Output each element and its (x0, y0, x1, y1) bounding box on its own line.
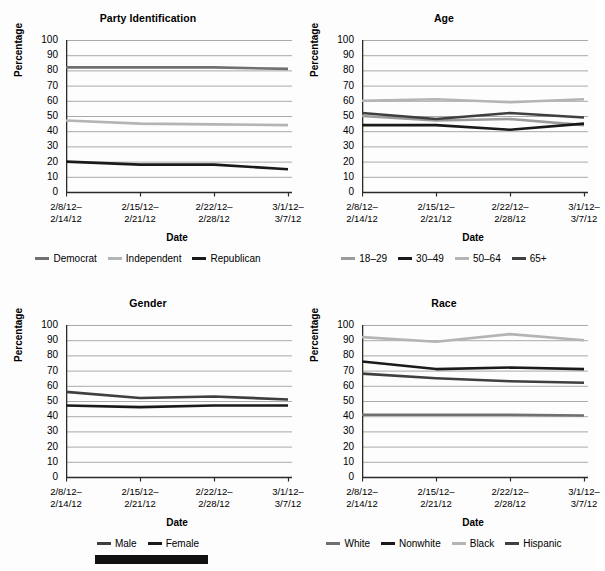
y-axis-tick-label: 100 (326, 35, 354, 45)
y-axis-tick-label: 100 (30, 320, 58, 330)
legend-label: 18–29 (359, 253, 387, 264)
y-axis-tick-label: 90 (30, 50, 58, 60)
x-tick-line1: 2/8/12– (346, 486, 378, 497)
legend-item[interactable]: Hispanic (505, 538, 561, 549)
legend-label: Democrat (53, 253, 96, 264)
data-series-line (66, 121, 288, 126)
x-axis-tick-label: 2/15/12–2/21/12 (399, 486, 473, 509)
x-axis-tick-label: 2/22/12–2/28/12 (473, 201, 547, 224)
x-tick-line1: 2/15/12– (122, 486, 159, 497)
chart-panel-gender: Gender Percentage 1009080706050403020100… (0, 285, 296, 570)
x-axis-label: Date (66, 517, 288, 528)
x-axis-tick-label: 2/22/12–2/28/12 (473, 486, 547, 509)
y-axis-tick-label: 70 (30, 366, 58, 376)
x-axis-tick-label: 3/1/12–3/7/12 (547, 201, 605, 224)
data-series-line (362, 374, 584, 383)
data-series-line (362, 99, 584, 102)
x-tick-line2: 3/7/12 (547, 498, 605, 510)
y-axis-tick-label: 80 (326, 65, 354, 75)
x-axis-tick-label: 2/15/12–2/21/12 (103, 201, 177, 224)
x-tick-line1: 2/22/12– (492, 486, 529, 497)
y-axis-tick-label: 30 (30, 141, 58, 151)
y-axis-tick-label: 0 (326, 187, 354, 197)
legend-swatch-icon (512, 257, 526, 260)
y-axis-label: Percentage (309, 76, 320, 90)
legend-label: Black (470, 538, 494, 549)
legend-label: 50–64 (473, 253, 501, 264)
redaction-bar (95, 555, 208, 564)
y-axis-tick-label: 100 (30, 35, 58, 45)
legend-item[interactable]: 65+ (512, 253, 547, 264)
y-axis-tick-label: 50 (30, 396, 58, 406)
x-tick-line1: 2/22/12– (492, 201, 529, 212)
legend-item[interactable]: Male (97, 538, 137, 549)
legend-swatch-icon (455, 257, 469, 260)
y-axis-tick-label: 70 (326, 81, 354, 91)
legend-item[interactable]: 30–49 (398, 253, 444, 264)
y-axis-tick-label: 80 (30, 65, 58, 75)
legend-swatch-icon (35, 257, 49, 260)
data-series-line (362, 361, 584, 369)
y-axis-label: Percentage (309, 361, 320, 375)
x-tick-line2: 2/21/12 (399, 498, 473, 510)
y-axis-tick-label: 10 (30, 457, 58, 467)
y-axis-tick-label: 90 (326, 50, 354, 60)
y-axis-tick-label: 20 (326, 157, 354, 167)
legend-swatch-icon (398, 257, 412, 260)
x-tick-line1: 2/15/12– (418, 486, 455, 497)
y-axis-tick-label: 60 (326, 381, 354, 391)
legend-label: Female (166, 538, 199, 549)
y-axis-tick-label: 20 (326, 442, 354, 452)
x-axis-tick-label: 2/8/12–2/14/12 (325, 486, 399, 509)
x-axis-tick-label: 2/15/12–2/21/12 (103, 486, 177, 509)
x-tick-line2: 2/28/12 (177, 213, 251, 225)
y-axis-label: Percentage (13, 361, 24, 375)
x-tick-line1: 3/1/12– (568, 201, 600, 212)
x-axis-label: Date (66, 232, 288, 243)
y-axis-tick-label: 90 (326, 335, 354, 345)
legend-item[interactable]: Republican (192, 253, 260, 264)
x-tick-line1: 2/8/12– (50, 486, 82, 497)
y-axis-tick-label: 80 (326, 350, 354, 360)
x-axis-tick-label: 2/8/12–2/14/12 (325, 201, 399, 224)
y-axis-tick-label: 30 (326, 141, 354, 151)
x-tick-line1: 2/8/12– (346, 201, 378, 212)
x-axis-tick-label: 2/22/12–2/28/12 (177, 486, 251, 509)
legend-item[interactable]: White (326, 538, 370, 549)
legend-item[interactable]: Nonwhite (381, 538, 441, 549)
y-axis-tick-label: 80 (30, 350, 58, 360)
legend-item[interactable]: Democrat (35, 253, 96, 264)
y-axis-tick-label: 100 (326, 320, 354, 330)
legend-item[interactable]: 50–64 (455, 253, 501, 264)
y-axis-tick-label: 60 (30, 381, 58, 391)
legend-swatch-icon (381, 542, 395, 545)
x-axis-tick-label: 2/15/12–2/21/12 (399, 201, 473, 224)
data-series-line (66, 392, 288, 400)
x-tick-line1: 2/15/12– (122, 201, 159, 212)
legend-item[interactable]: Female (148, 538, 199, 549)
x-axis-label: Date (362, 232, 584, 243)
x-axis-tick-label: 2/8/12–2/14/12 (29, 486, 103, 509)
x-tick-line1: 2/15/12– (418, 201, 455, 212)
legend-item[interactable]: Independent (108, 253, 182, 264)
chart-legend: 18–2930–4950–6465+ (296, 253, 592, 264)
chart-title: Race (296, 297, 592, 309)
legend-swatch-icon (192, 257, 206, 260)
chart-legend: MaleFemale (0, 538, 296, 549)
y-axis-tick-label: 0 (326, 472, 354, 482)
x-tick-line2: 2/21/12 (399, 213, 473, 225)
chart-svg (362, 325, 590, 485)
legend-item[interactable]: 18–29 (341, 253, 387, 264)
data-series-line (362, 124, 584, 130)
y-axis-tick-label: 20 (30, 157, 58, 167)
chart-svg (66, 40, 294, 200)
chart-svg (66, 325, 294, 485)
x-axis-tick-label: 2/22/12–2/28/12 (177, 201, 251, 224)
y-axis-tick-label: 40 (326, 126, 354, 136)
chart-title: Party Identification (0, 12, 296, 24)
y-axis-tick-label: 0 (30, 472, 58, 482)
legend-label: Independent (126, 253, 182, 264)
legend-item[interactable]: Black (452, 538, 494, 549)
y-axis-tick-label: 70 (30, 81, 58, 91)
